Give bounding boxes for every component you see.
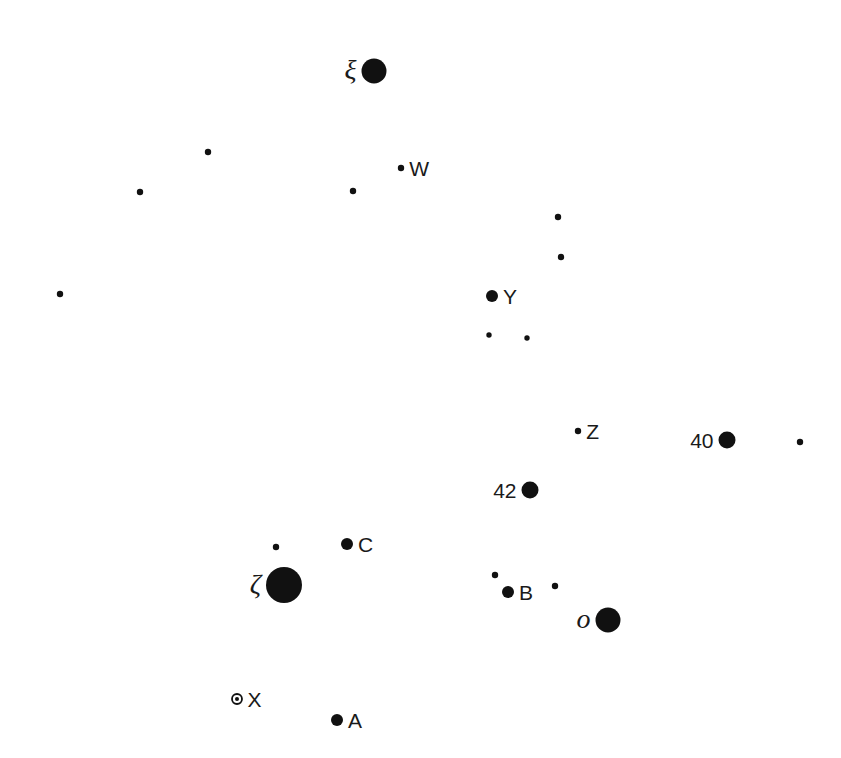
star-s3: [350, 188, 356, 194]
star-label: W: [409, 157, 429, 180]
star-dot: [273, 544, 279, 550]
star-dot: [486, 290, 498, 302]
star-dot: [555, 214, 561, 220]
star-dot: [575, 428, 581, 434]
star-dot: [558, 254, 564, 260]
star-s6: [57, 291, 63, 297]
star-label: ξ: [345, 54, 357, 85]
star-dot: [57, 291, 63, 297]
star-s1: [205, 149, 211, 155]
star-s4: [555, 214, 561, 220]
star-label: A: [348, 709, 362, 732]
star-dot: [205, 149, 211, 155]
star-W: W: [398, 157, 429, 180]
star-dot: [552, 583, 558, 589]
stars-layer: ξWYZ4042CζBoXA: [57, 54, 803, 732]
star-label: 40: [690, 429, 713, 452]
star-Y: Y: [486, 285, 517, 308]
star-C: C: [341, 533, 373, 556]
star-X: X: [232, 688, 262, 711]
star-xi: ξ: [345, 54, 387, 85]
star-s9: [797, 439, 803, 445]
star-label: Z: [586, 420, 599, 443]
star-dot: [341, 538, 353, 550]
star-label: ζ: [250, 568, 263, 599]
star-dot: [492, 572, 498, 578]
star-40: 40: [690, 429, 735, 452]
variable-star-dot: [235, 697, 239, 701]
star-omicron: o: [577, 603, 621, 634]
star-42: 42: [493, 479, 538, 502]
star-s5: [558, 254, 564, 260]
star-dot: [350, 188, 356, 194]
star-s7: [486, 332, 491, 337]
star-chart: ξWYZ4042CζBoXA: [0, 0, 841, 758]
star-dot: [596, 608, 621, 633]
star-dot: [398, 165, 404, 171]
star-B: B: [502, 581, 533, 604]
star-dot: [137, 189, 143, 195]
star-A: A: [331, 709, 362, 732]
star-label: o: [577, 603, 591, 634]
star-Z: Z: [575, 420, 599, 443]
star-s10: [273, 544, 279, 550]
star-s2: [137, 189, 143, 195]
star-label: X: [248, 688, 262, 711]
star-dot: [719, 432, 736, 449]
star-s12: [552, 583, 558, 589]
star-zeta: ζ: [250, 567, 302, 603]
star-dot: [331, 714, 343, 726]
star-label: Y: [503, 285, 517, 308]
star-dot: [362, 59, 387, 84]
star-label: 42: [493, 479, 516, 502]
star-dot: [502, 586, 514, 598]
star-dot: [797, 439, 803, 445]
star-dot: [266, 567, 302, 603]
star-s11: [492, 572, 498, 578]
star-dot: [522, 482, 539, 499]
star-label: C: [358, 533, 373, 556]
star-label: B: [519, 581, 533, 604]
star-dot: [486, 332, 491, 337]
star-dot: [524, 335, 529, 340]
star-s8: [524, 335, 529, 340]
